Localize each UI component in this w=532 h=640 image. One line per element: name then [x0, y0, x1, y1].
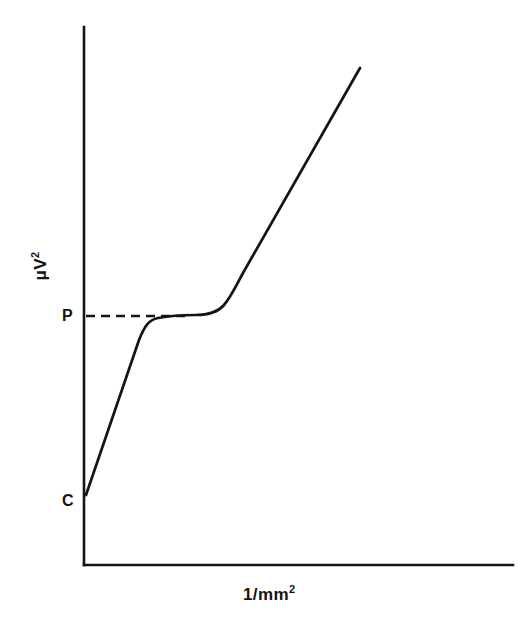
x-axis-label-exponent: 2 — [289, 583, 296, 595]
x-axis-label-text: 1/mm — [243, 585, 289, 604]
chart-canvas — [0, 0, 532, 640]
y-axis-label-exponent: 2 — [29, 251, 41, 258]
figure-container: μV2 1/mm2 P C — [0, 0, 532, 640]
y-axis-label: μV2 — [31, 251, 51, 280]
plateau-marker-label: P — [62, 307, 73, 325]
intercept-marker-label: C — [62, 492, 74, 510]
response-curve — [86, 68, 360, 495]
y-axis-label-text: μV — [31, 258, 50, 281]
x-axis-label: 1/mm2 — [243, 585, 296, 605]
